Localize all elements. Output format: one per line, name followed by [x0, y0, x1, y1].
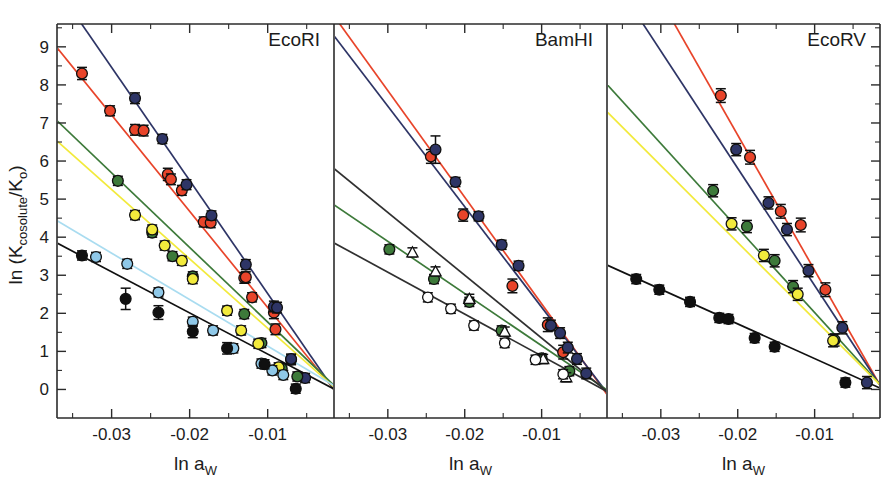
data-point	[581, 368, 592, 379]
marker-lightblue	[91, 252, 102, 263]
marker-navy	[130, 93, 141, 104]
y-tick-label: 2	[40, 304, 49, 323]
marker-open-circle	[469, 320, 479, 330]
data-point	[555, 328, 566, 339]
figure-root: 0123456789-0.03-0.02-0.01ln aWEcoRI-0.03…	[0, 0, 893, 478]
data-point	[206, 210, 217, 221]
data-point	[130, 93, 141, 104]
marker-navy	[731, 144, 742, 155]
marker-black	[631, 274, 642, 285]
marker-red	[458, 210, 469, 221]
data-point	[407, 247, 418, 257]
y-tick-label: 3	[40, 266, 49, 285]
data-point	[685, 296, 696, 307]
marker-navy	[496, 239, 507, 250]
marker-lightblue	[208, 325, 219, 336]
marker-navy	[206, 210, 217, 221]
marker-red	[715, 90, 726, 101]
marker-green	[112, 175, 123, 186]
x-tick-label: -0.01	[522, 425, 561, 444]
marker-yellow	[828, 335, 839, 346]
y-tick-label: 0	[40, 380, 49, 399]
data-point	[458, 209, 469, 221]
data-point	[840, 377, 851, 388]
marker-red	[820, 284, 831, 295]
y-axis-label-main: ln (K	[5, 245, 26, 284]
data-point	[138, 125, 149, 136]
marker-black	[749, 333, 760, 344]
data-point	[270, 324, 281, 335]
x-axis-label: ln aW	[174, 453, 218, 478]
data-point	[247, 292, 258, 303]
marker-navy	[240, 259, 251, 270]
data-point	[500, 338, 510, 348]
data-point	[176, 255, 187, 266]
marker-open-circle	[500, 338, 510, 348]
marker-black	[685, 296, 696, 307]
data-point	[240, 259, 251, 270]
data-point	[153, 287, 164, 298]
marker-lightblue	[278, 370, 289, 381]
data-point	[159, 240, 170, 251]
marker-navy	[473, 211, 484, 222]
data-point	[862, 377, 873, 389]
marker-black	[187, 326, 198, 337]
x-tick-label: -0.01	[795, 425, 834, 444]
marker-green	[292, 371, 303, 382]
data-point	[130, 210, 141, 221]
marker-black	[259, 359, 270, 370]
marker-black	[120, 293, 131, 304]
panel-title-ecori: EcoRI	[268, 29, 320, 50]
marker-green	[384, 244, 395, 255]
marker-navy	[545, 320, 556, 331]
data-point	[105, 105, 116, 116]
x-tick-label: -0.03	[92, 425, 131, 444]
marker-navy	[513, 260, 524, 271]
data-point	[723, 314, 734, 325]
marker-yellow	[758, 250, 769, 261]
data-point	[742, 220, 753, 232]
data-point	[558, 369, 568, 379]
marker-navy	[803, 265, 814, 276]
marker-navy	[450, 177, 461, 188]
data-point	[446, 304, 456, 314]
marker-navy	[555, 328, 566, 339]
data-point	[473, 211, 484, 222]
data-point	[469, 320, 479, 330]
data-point	[763, 197, 774, 209]
y-tick-label: 9	[40, 38, 49, 57]
marker-navy	[581, 368, 592, 379]
marker-black	[654, 284, 665, 295]
marker-navy	[181, 179, 192, 190]
marker-black	[840, 377, 851, 388]
marker-black	[77, 250, 88, 261]
data-point	[240, 272, 251, 283]
marker-yellow	[147, 224, 158, 235]
y-axis-label-mid: /K	[5, 179, 26, 197]
data-point	[731, 144, 742, 156]
panel-ecori	[57, 0, 334, 394]
data-point	[572, 354, 583, 365]
marker-red	[166, 174, 177, 185]
marker-black	[222, 343, 233, 354]
x-axis-label: ln aW	[449, 453, 493, 478]
marker-black	[769, 341, 780, 352]
panels-layer	[57, 0, 880, 394]
data-point	[792, 288, 803, 300]
data-point	[782, 223, 793, 235]
marker-navy	[430, 144, 441, 155]
marker-open-circle	[558, 369, 568, 379]
data-point	[187, 325, 198, 337]
marker-lightblue	[122, 258, 133, 269]
x-tick-label: -0.02	[445, 425, 484, 444]
y-tick-label: 1	[40, 342, 49, 361]
marker-navy	[782, 224, 793, 235]
marker-green	[769, 255, 780, 266]
marker-yellow	[159, 240, 170, 251]
data-point	[837, 322, 848, 334]
data-point	[272, 302, 283, 313]
data-point	[239, 309, 250, 320]
marker-red	[105, 105, 116, 116]
marker-yellow	[130, 210, 141, 221]
data-point	[222, 343, 233, 354]
